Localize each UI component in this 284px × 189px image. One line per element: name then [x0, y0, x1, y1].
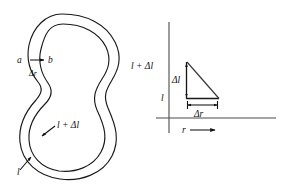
- label-point-b: b: [48, 55, 53, 65]
- label-r-axis: r: [182, 125, 186, 135]
- label-l-curve: l: [17, 167, 20, 177]
- label-delta-r-triangle: Δr: [193, 109, 204, 119]
- label-l-plus-delta-l-axis: l + Δl: [131, 61, 153, 71]
- label-point-a: a: [17, 55, 22, 65]
- triangle-panel: l + Δl l Δl Δr r: [131, 22, 276, 135]
- physics-diagram-svg: a b Δr l + Δl l l + Δl l: [0, 0, 284, 189]
- figure-root: a b Δr l + Δl l l + Δl l: [0, 0, 284, 189]
- inner-curve-leader-arrow: [42, 126, 55, 136]
- outer-contour-curve: [20, 14, 119, 180]
- label-l-plus-delta-l-curve: l + Δl: [57, 120, 79, 130]
- label-delta-r-left: Δr: [28, 69, 38, 78]
- label-l-axis: l: [161, 93, 164, 103]
- label-delta-l-triangle: Δl: [171, 75, 181, 85]
- inner-contour-curve: [29, 24, 109, 171]
- triangle-hypotenuse: [187, 62, 219, 99]
- closed-curve-panel: a b Δr l + Δl l: [17, 14, 119, 180]
